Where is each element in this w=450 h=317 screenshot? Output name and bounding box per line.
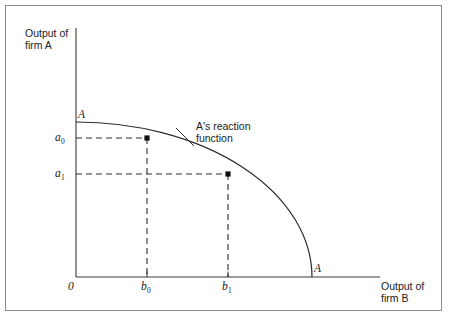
figure-container: Output of firm A Output of firm B 0 b0 b… [0, 0, 450, 317]
reaction-function-curve [76, 122, 312, 277]
y-tick-label-a1: a1 [55, 167, 65, 179]
curve-endpoint-label-top: A [78, 108, 85, 120]
data-point-0 [144, 135, 149, 140]
y-axis-label: Output of firm A [25, 28, 68, 51]
x-axis-label: Output of firm B [381, 281, 424, 304]
y-tick-label-a0-base: a [55, 131, 61, 143]
origin-tick-label: 0 [68, 280, 74, 292]
reaction-function-annotation: A's reaction function [196, 121, 251, 145]
y-tick-label-a1-base: a [55, 167, 61, 179]
x-tick-label-b1-base: b [222, 280, 228, 292]
x-tick-label-b1-subscript: 1 [228, 286, 232, 295]
x-tick-label-b0-base: b [141, 280, 147, 292]
x-tick-label-b1: b1 [222, 280, 232, 292]
y-tick-label-a0-subscript: 0 [61, 137, 65, 146]
y-tick-label-a0: a0 [55, 131, 65, 143]
x-tick-label-b0-subscript: 0 [147, 286, 151, 295]
x-tick-label-b0: b0 [141, 280, 151, 292]
y-tick-label-a1-subscript: 1 [61, 173, 65, 182]
data-point-1 [225, 171, 230, 176]
curve-endpoint-label-bottom: A [314, 262, 321, 274]
